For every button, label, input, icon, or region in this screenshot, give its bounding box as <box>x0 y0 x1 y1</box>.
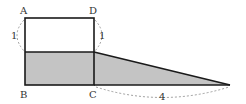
left-dimension-arc <box>17 20 24 51</box>
shaded-region <box>25 52 230 85</box>
measure-right: 1 <box>99 30 105 41</box>
measure-left: 1 <box>11 30 17 41</box>
label-B: B <box>20 89 27 100</box>
label-C: C <box>89 89 97 100</box>
label-D: D <box>89 5 97 16</box>
geometry-diagram: A D B C 1 1 4 <box>0 0 246 104</box>
label-A: A <box>19 5 28 16</box>
measure-bottom: 4 <box>159 91 165 102</box>
diagram-svg: A D B C 1 1 4 <box>0 0 246 104</box>
